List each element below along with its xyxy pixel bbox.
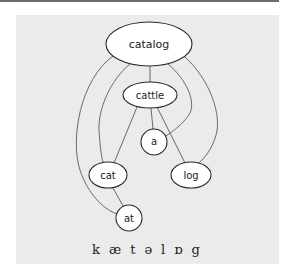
node-cat-label: cat — [100, 170, 116, 181]
edge-cattle-cat — [114, 107, 137, 163]
phoneme: k — [92, 242, 100, 257]
node-a-label: a — [151, 136, 157, 147]
edge-catalog-cat — [99, 64, 130, 162]
node-a: a — [141, 129, 167, 155]
phoneme: ə — [144, 242, 152, 257]
word-lattice-diagram: catalog cattle a cat log at — [0, 0, 292, 276]
node-log: log — [171, 162, 211, 188]
phoneme: æ — [109, 242, 121, 257]
node-cat: cat — [89, 162, 127, 188]
phoneme: l — [161, 242, 165, 257]
edge-cattle-a — [151, 108, 153, 129]
node-cattle-label: cattle — [136, 90, 164, 101]
phoneme: t — [130, 242, 135, 257]
edge-catalog-log — [185, 57, 218, 163]
node-cattle: cattle — [123, 82, 177, 108]
phonetic-transcription: kætəlɒg — [0, 242, 292, 257]
node-log-label: log — [183, 170, 198, 181]
node-catalog: catalog — [106, 22, 192, 66]
node-at: at — [116, 205, 142, 231]
phoneme: ɒ — [174, 242, 182, 257]
node-at-label: at — [124, 213, 134, 224]
phoneme: g — [192, 242, 200, 257]
node-catalog-label: catalog — [129, 38, 170, 51]
edge-cat-at — [113, 188, 123, 206]
edge-catalog-at — [76, 56, 117, 214]
